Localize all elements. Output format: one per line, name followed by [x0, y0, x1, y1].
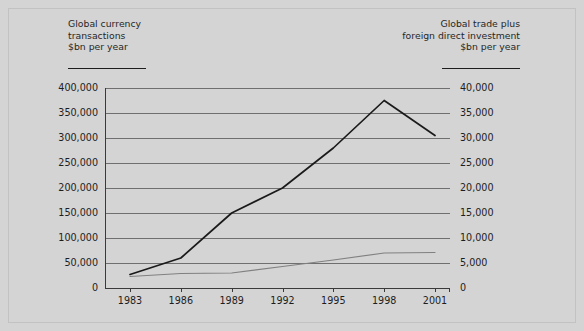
left-tick-label: 0: [92, 283, 98, 293]
x-tick-label: 1983: [118, 295, 142, 306]
left-tick-label: 50,000: [64, 258, 98, 268]
left-title-rule: [68, 68, 146, 69]
x-tick-label: 1992: [270, 295, 294, 306]
right-axis-tick-labels: 40,00035,00030,00025,00020,00015,00010,0…: [460, 88, 550, 288]
left-tick-label: 350,000: [58, 108, 98, 118]
x-tick: [130, 288, 131, 292]
left-tick-label: 150,000: [58, 208, 98, 218]
left-tick-label: 250,000: [58, 158, 98, 168]
x-tick-end: [449, 288, 450, 292]
x-tick: [384, 288, 385, 292]
right-tick-label: 15,000: [460, 208, 494, 218]
series-line-2: [130, 253, 435, 277]
right-tick-label: 25,000: [460, 158, 494, 168]
left-tick-label: 100,000: [58, 233, 98, 243]
plot-area: [105, 88, 450, 288]
right-axis-title: Global trade plus foreign direct investm…: [402, 18, 520, 53]
x-axis-tick-labels: 1983198619891992199519982001: [105, 295, 450, 311]
right-tick-label: 0: [460, 283, 466, 293]
right-title-rule: [442, 68, 520, 69]
x-axis-line: [105, 288, 450, 289]
right-tick-label: 10,000: [460, 233, 494, 243]
x-tick: [283, 288, 284, 292]
left-axis-tick-labels: 400,000350,000300,000250,000200,000150,0…: [12, 88, 98, 288]
x-tick-label: 1989: [219, 295, 243, 306]
left-axis-title: Global currency transactions $bn per yea…: [68, 18, 141, 53]
right-tick-label: 40,000: [460, 83, 494, 93]
x-tick: [232, 288, 233, 292]
right-tick-label: 35,000: [460, 108, 494, 118]
right-tick-label: 30,000: [460, 133, 494, 143]
x-tick: [333, 288, 334, 292]
x-tick: [181, 288, 182, 292]
series-line-1: [130, 101, 435, 275]
x-tick-label: 1995: [321, 295, 345, 306]
chart-figure: Global currency transactions $bn per yea…: [0, 0, 584, 331]
left-tick-label: 300,000: [58, 133, 98, 143]
x-tick: [435, 288, 436, 292]
right-tick-label: 20,000: [460, 183, 494, 193]
left-tick-label: 200,000: [58, 183, 98, 193]
x-tick-label: 2001: [423, 295, 447, 306]
right-tick-label: 5,000: [460, 258, 487, 268]
x-tick-label: 1998: [372, 295, 396, 306]
x-tick-label: 1986: [169, 295, 193, 306]
series-lines: [105, 88, 450, 288]
left-tick-label: 400,000: [58, 83, 98, 93]
